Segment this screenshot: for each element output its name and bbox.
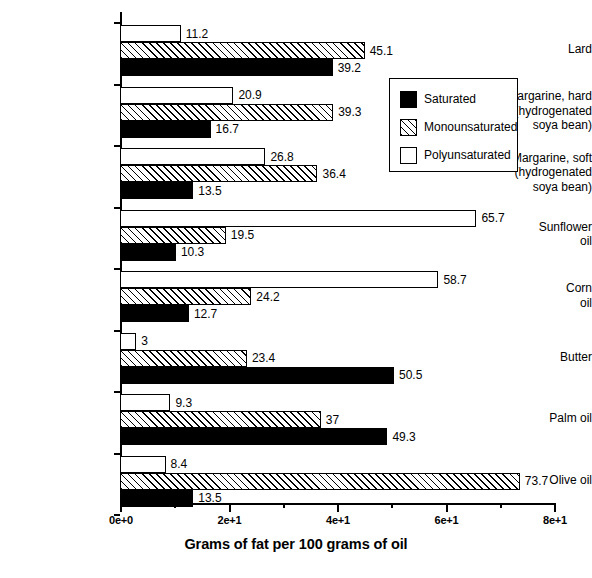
bar-value-label: 10.3 [181,246,204,258]
bar-value-label: 23.4 [252,352,275,364]
category-label-4: Corn oil [480,281,592,310]
x-axis-tick-label: 4e+1 [326,514,350,526]
x-axis-tick-label: 6e+1 [435,514,459,526]
bar-polyunsaturated-7 [120,456,166,473]
bar-value-label: 19.5 [231,229,254,241]
bar-polyunsaturated-4 [120,271,438,288]
y-axis-tick [114,453,120,455]
legend-label: Saturated [424,93,476,105]
x-axis-major-tick [229,503,231,512]
bar-value-label: 9.3 [175,397,192,409]
bar-polyunsaturated-1 [120,87,233,104]
bar-monounsaturated-4 [120,288,251,305]
bar-saturated-6 [120,428,387,445]
bar-saturated-2 [120,182,193,199]
legend-entry-monounsaturated: Monounsaturated [400,118,517,136]
category-label-0: Lard [480,42,592,57]
x-axis-minor-tick [500,503,502,508]
y-axis-tick [114,330,120,332]
bar-value-label: 26.8 [270,151,293,163]
bar-saturated-1 [120,121,211,138]
bar-value-label: 50.5 [399,369,422,381]
y-axis-tick [114,84,120,86]
bar-value-label: 16.7 [216,123,239,135]
x-axis-tick-label: 2e+1 [218,514,242,526]
x-axis-major-tick [554,503,556,512]
bar-value-label: 39.2 [338,62,361,74]
bar-saturated-7 [120,490,193,507]
bar-saturated-4 [120,305,189,322]
bar-monounsaturated-2 [120,165,317,182]
fat-composition-bar-chart: 11.245.139.220.939.316.726.836.413.565.7… [0,0,592,578]
legend-label: Monounsaturated [424,121,517,133]
x-axis-tick-label: 8e+1 [543,514,567,526]
bar-value-label: 58.7 [443,274,466,286]
y-axis-tick [114,207,120,209]
x-axis-major-tick [337,503,339,512]
bar-monounsaturated-5 [120,350,247,367]
x-axis-title: Grams of fat per 100 grams of oil [0,536,592,552]
bar-polyunsaturated-3 [120,210,476,227]
bar-monounsaturated-3 [120,227,226,244]
bar-saturated-0 [120,59,333,76]
category-label-5: Butter [480,350,592,365]
x-axis-minor-tick [391,503,393,508]
legend-swatch-icon [400,91,417,108]
x-axis-tick-label: 0e+0 [109,514,133,526]
y-axis-tick [114,268,120,270]
x-axis-minor-tick [283,503,285,508]
category-label-6: Palm oil [480,411,592,426]
bar-value-label: 49.3 [392,431,415,443]
legend-entry-polyunsaturated: Polyunsaturated [400,146,511,164]
x-axis-major-tick [446,503,448,512]
bar-value-label: 8.4 [171,458,188,470]
bar-polyunsaturated-0 [120,25,181,42]
bar-polyunsaturated-5 [120,333,136,350]
bar-saturated-5 [120,367,394,384]
bar-value-label: 36.4 [322,168,345,180]
legend-label: Polyunsaturated [424,149,511,161]
bar-value-label: 11.2 [186,28,208,40]
bar-value-label: 20.9 [238,89,261,101]
bar-value-label: 12.7 [194,308,217,320]
category-label-7: Olive oil [480,473,592,488]
chart-legend: SaturatedMonounsaturatedPolyunsaturated [389,78,518,172]
bar-value-label: 13.5 [198,492,221,504]
bar-monounsaturated-6 [120,411,321,428]
bar-monounsaturated-1 [120,104,333,121]
legend-swatch-icon [400,119,417,136]
x-axis-minor-tick [174,503,176,508]
bar-polyunsaturated-2 [120,148,265,165]
y-axis-tick [114,145,120,147]
legend-swatch-icon [400,147,417,164]
y-axis-tick [114,391,120,393]
bar-value-label: 45.1 [370,45,393,57]
bar-monounsaturated-7 [120,473,520,490]
bar-saturated-3 [120,244,176,261]
bar-value-label: 39.3 [338,106,361,118]
bar-value-label: 3 [141,335,148,347]
bar-value-label: 37 [326,414,339,426]
y-axis-tick [114,22,120,24]
category-label-3: Sunflower oil [480,220,592,249]
bar-monounsaturated-0 [120,42,365,59]
legend-entry-saturated: Saturated [400,90,476,108]
bar-polyunsaturated-6 [120,394,170,411]
x-axis-major-tick [120,503,122,512]
bar-value-label: 13.5 [198,185,221,197]
bar-value-label: 24.2 [256,291,279,303]
